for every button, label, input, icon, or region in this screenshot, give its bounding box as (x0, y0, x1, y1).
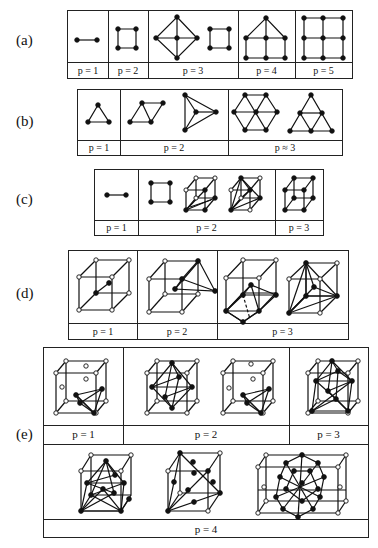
p-label: p = 1 (68, 66, 108, 76)
p-label: p = 2 (120, 143, 228, 153)
panel-b: p = 1 p = 2 p ≈ 3 (77, 89, 343, 156)
stencil-diagram (44, 348, 368, 519)
p-label: p = 2 (137, 327, 217, 337)
p-label: p = 2 (108, 66, 148, 76)
p-label: p = 1 (69, 327, 137, 337)
panel-a: p = 1 p = 2 p = 3 p = 4 p = 5 (67, 10, 353, 79)
p-label: p ≈ 3 (228, 143, 342, 153)
p-label: p = 4 (44, 524, 368, 535)
row-label-d: (d) (16, 285, 34, 302)
panel-d: p = 1 p = 2 p = 3 (68, 250, 349, 340)
p-label: p = 3 (148, 66, 238, 76)
panel-e: p = 1 p = 2 p = 3 p = 4 (43, 347, 369, 538)
p-label: p = 4 (238, 66, 295, 76)
p-label: p = 1 (95, 223, 138, 233)
stencil-diagram (95, 170, 323, 220)
row-label-a: (a) (16, 32, 33, 49)
stencil-diagram (78, 90, 342, 140)
stencil-diagram (68, 11, 352, 62)
p-label: p = 3 (275, 223, 323, 233)
p-label: p = 3 (217, 327, 348, 337)
stencil-diagram (69, 251, 348, 323)
p-label: p = 2 (138, 223, 275, 233)
p-label: p = 5 (295, 66, 352, 76)
row-label-b: (b) (16, 113, 34, 130)
row-label-e: (e) (16, 426, 33, 443)
panel-c: p = 1 p = 2 p = 3 (94, 169, 324, 236)
row-label-c: (c) (16, 191, 33, 208)
p-label: p = 1 (78, 143, 120, 153)
